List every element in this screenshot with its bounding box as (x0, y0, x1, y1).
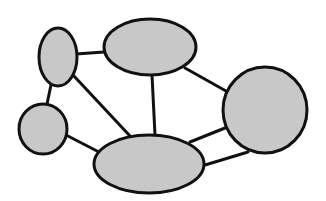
edge-e-d (66, 135, 97, 151)
node-d (94, 135, 204, 193)
node-c (223, 67, 307, 153)
edge-b-d (152, 75, 155, 135)
node-b (104, 19, 196, 75)
node-e (19, 104, 67, 154)
node-a (39, 28, 77, 86)
graph-diagram (0, 0, 326, 201)
nodes-layer (19, 19, 307, 193)
edge-a-b (76, 52, 104, 54)
edge-b-c (185, 68, 226, 91)
edge-c-d (205, 152, 248, 165)
edge-c-d (190, 128, 225, 142)
edge-a-d (73, 75, 130, 136)
edge-a-e (47, 85, 51, 104)
